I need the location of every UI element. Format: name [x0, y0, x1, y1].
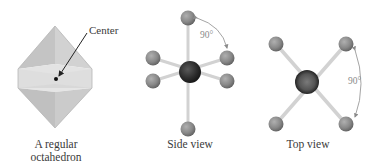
ligand-atom: [220, 51, 235, 66]
ligand-atom: [339, 117, 354, 132]
center-label: Center: [89, 24, 118, 36]
ligand-atom: [269, 37, 284, 52]
center-dot: [54, 77, 58, 81]
top-angle-label: 90°: [348, 76, 361, 86]
side-angle-label: 90°: [200, 30, 213, 40]
top-view-molecule: [269, 37, 354, 132]
ligand-atom: [220, 74, 235, 89]
octahedron-caption-line2: octahedron: [10, 151, 102, 164]
ligand-atom: [269, 117, 284, 132]
ligand-atom: [146, 51, 161, 66]
side-view-caption: Side view: [150, 138, 230, 151]
ligand-atom: [146, 74, 161, 89]
octahedron-caption: A regular octahedron: [10, 138, 102, 164]
octahedron-shape: [18, 26, 92, 128]
ligand-atom: [181, 122, 196, 137]
ligand-atom: [181, 11, 196, 26]
octahedron-caption-line1: A regular: [10, 138, 102, 151]
ligand-atom: [339, 37, 354, 52]
side-view-molecule: [146, 11, 235, 137]
central-atom: [295, 70, 319, 94]
central-atom: [179, 61, 201, 83]
top-view-caption: Top view: [270, 138, 346, 151]
